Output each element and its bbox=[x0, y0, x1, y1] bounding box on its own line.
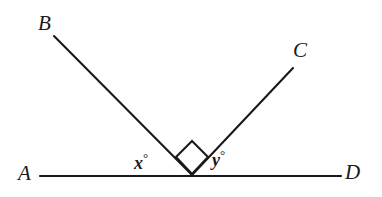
point-label-c: C bbox=[293, 40, 307, 61]
degree-symbol-y: ° bbox=[220, 147, 225, 162]
degree-symbol-x: ° bbox=[143, 150, 148, 165]
point-label-d: D bbox=[345, 162, 360, 183]
point-label-a: A bbox=[18, 163, 31, 184]
angle-variable-y: y bbox=[212, 150, 220, 170]
geometry-canvas bbox=[0, 0, 382, 197]
geometry-diagram: A B C D x° y° bbox=[0, 0, 382, 197]
right-angle-marker-icon bbox=[176, 141, 208, 174]
point-label-b: B bbox=[38, 13, 51, 34]
ray-segment-BO bbox=[54, 36, 192, 175]
angle-label-x: x° bbox=[134, 151, 148, 172]
angle-label-y: y° bbox=[212, 148, 225, 169]
angle-variable-x: x bbox=[134, 153, 143, 173]
